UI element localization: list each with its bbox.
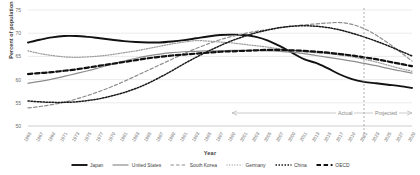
line-chart: Percent of population Year 505560657075 …	[0, 0, 420, 175]
legend-swatch	[71, 162, 88, 168]
legend-item-china[interactable]: China	[275, 162, 307, 168]
legend-label: Japan	[90, 163, 103, 168]
y-tick-label: 60	[8, 77, 21, 83]
plot-area	[0, 0, 420, 175]
y-tick-label: 50	[8, 123, 21, 129]
legend-swatch	[275, 162, 292, 168]
legend-swatch	[316, 162, 333, 168]
y-tick-label: 65	[8, 53, 21, 59]
legend-item-germany[interactable]: Germany	[226, 162, 266, 168]
legend-label: Germany	[245, 163, 265, 168]
legend-item-japan[interactable]: Japan	[71, 162, 104, 168]
legend-swatch	[226, 162, 243, 168]
legend-label: South Korea	[190, 163, 217, 168]
legend-swatch	[112, 162, 129, 168]
actual-label: Actual	[336, 110, 354, 116]
chart-legend: JapanUnited StatesSouth KoreaGermanyChin…	[0, 162, 420, 168]
legend-item-united-states[interactable]: United States	[112, 162, 161, 168]
legend-label: OECD	[335, 163, 349, 168]
legend-swatch	[170, 162, 187, 168]
projected-label: Projected	[373, 110, 399, 116]
legend-item-oecd[interactable]: OECD	[316, 162, 350, 168]
y-tick-label: 55	[8, 100, 21, 106]
x-axis-title: Year	[0, 150, 420, 156]
y-tick-label: 75	[8, 7, 21, 13]
y-tick-label: 70	[8, 30, 21, 36]
legend-label: China	[294, 163, 307, 168]
legend-label: United States	[132, 163, 161, 168]
legend-item-south-korea[interactable]: South Korea	[170, 162, 217, 168]
